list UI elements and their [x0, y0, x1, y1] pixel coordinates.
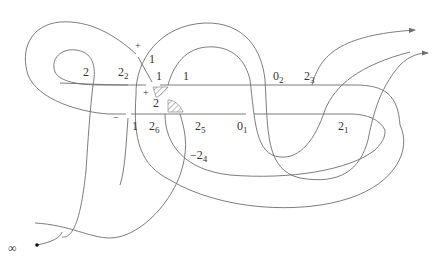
label-2-mid: 2	[153, 96, 159, 110]
label-0-1: 01	[237, 119, 248, 135]
strand-upper-horizontal	[60, 83, 400, 125]
label-2-left: 2	[83, 65, 89, 79]
infinity-label: ∞	[8, 241, 17, 255]
label-0-2: 02	[273, 69, 284, 85]
label-2-5: 25	[195, 119, 206, 135]
crossing-signs: + + −	[113, 40, 149, 123]
strand-left-inner-loop	[54, 50, 128, 237]
strand-arrow-top	[312, 30, 415, 85]
label-2-3: 23	[304, 69, 315, 85]
region-labels: 2 22 1 1 1 02 23 2 1 26 25 01 21 −24	[83, 52, 349, 164]
strand-big-outer-arc	[136, 23, 428, 180]
label-2-1: 21	[338, 119, 349, 135]
label-2-2: 22	[118, 65, 129, 81]
sign-plus-mid: +	[143, 87, 149, 98]
strand-inner-arc	[168, 47, 410, 157]
label-neg-2-4: −24	[190, 148, 208, 164]
sign-plus-top: +	[135, 40, 141, 51]
strand-infinity-tail	[37, 232, 62, 245]
label-1-b: 1	[183, 69, 189, 83]
knot-diagram: ∞ 2 22 1 1 1 02 23 2 1 26 25 01 21 −24 +…	[0, 0, 432, 263]
strand-left-vertical	[120, 118, 128, 185]
basepoint-dot	[35, 243, 39, 247]
sign-minus: −	[113, 112, 119, 123]
label-1-a: 1	[156, 69, 162, 83]
label-2-6: 26	[149, 119, 160, 135]
hatched-region-lower	[168, 100, 183, 112]
label-1-low: 1	[132, 119, 138, 133]
label-1-top: 1	[149, 52, 155, 66]
